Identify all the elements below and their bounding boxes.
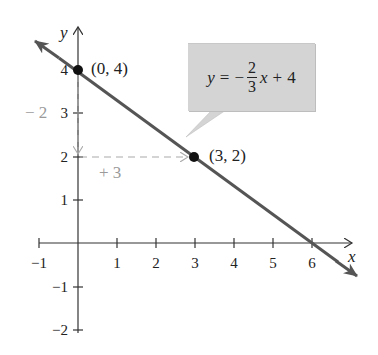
rise-label: − 2 bbox=[25, 103, 47, 122]
equation-sign: − bbox=[234, 68, 244, 88]
y-tick-label: −1 bbox=[52, 279, 68, 295]
slope-fraction: 2 3 bbox=[247, 60, 257, 95]
point-label-a: (0, 4) bbox=[91, 59, 128, 78]
equation-equals: = bbox=[220, 68, 230, 88]
point-label-b: (3, 2) bbox=[209, 146, 246, 165]
run-label: + 3 bbox=[99, 163, 121, 182]
callout-tail bbox=[186, 110, 226, 137]
y-tick-label: −2 bbox=[52, 322, 68, 338]
y-axis-label: y bbox=[58, 23, 68, 42]
y-tick-label: 1 bbox=[61, 192, 69, 208]
x-tick-label: 4 bbox=[230, 255, 238, 271]
fraction-denominator: 3 bbox=[248, 78, 256, 95]
x-axis: −1 1 2 3 4 5 6 x bbox=[31, 238, 356, 271]
equation-var: x bbox=[260, 68, 268, 88]
x-tick-label: 5 bbox=[269, 255, 277, 271]
line-series bbox=[35, 41, 59, 58]
y-tick-label: 2 bbox=[61, 149, 69, 165]
equation-plus: + bbox=[273, 68, 283, 88]
equation-constant: 4 bbox=[287, 68, 296, 88]
x-tick-label: −1 bbox=[31, 255, 47, 271]
point-3-2 bbox=[189, 152, 199, 162]
x-tick-label: 2 bbox=[152, 255, 160, 271]
point-0-4 bbox=[73, 65, 83, 75]
fraction-numerator: 2 bbox=[247, 60, 257, 78]
y-tick-label: 3 bbox=[61, 105, 69, 121]
x-tick-label: 6 bbox=[308, 255, 316, 271]
equation-lhs: y bbox=[207, 68, 215, 88]
equation: y = − 2 3 x + 4 bbox=[207, 60, 295, 95]
x-tick-label: 3 bbox=[191, 255, 199, 271]
x-tick-label: 1 bbox=[113, 255, 121, 271]
x-axis-label: x bbox=[347, 247, 356, 266]
equation-callout: y = − 2 3 x + 4 bbox=[188, 43, 315, 111]
